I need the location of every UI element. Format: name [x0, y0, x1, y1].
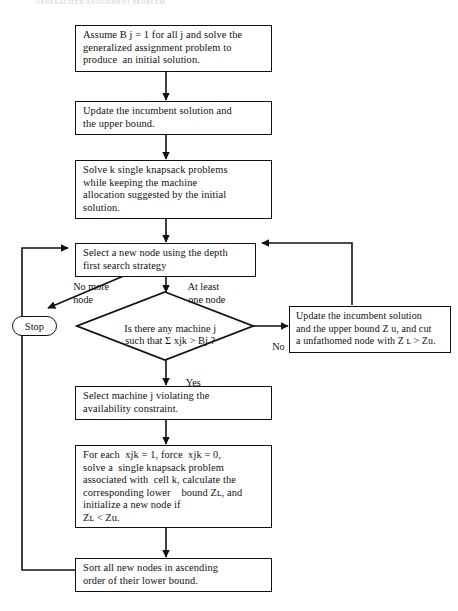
node-stop: Stop: [12, 316, 57, 336]
node-init: Assume B j = 1 for all j and solve the g…: [75, 25, 272, 72]
node-decision-line-2: such that Σ xjk > Bj ?: [125, 335, 215, 346]
node-update-bound-cut-line-2: and the upper bound Z u, and cut: [296, 323, 450, 336]
node-solve-knapsack-line-4: solution.: [83, 202, 271, 215]
node-for-each-line-3: associated with cell k, calculate the: [83, 474, 271, 487]
node-update-bound-cut-line-1: Update the incumbent solution: [296, 310, 450, 323]
edge-label-no: No: [262, 329, 285, 366]
edge-label-yes: Yes: [176, 365, 201, 402]
node-init-line-2: generalized assignment problem to: [83, 42, 271, 55]
node-select-machine: Select machine j violating the availabil…: [75, 386, 272, 420]
node-for-each-line-2: solve a single knapsack problem: [83, 462, 271, 475]
edge-label-at-least-one-node-line-1: At least: [188, 281, 219, 292]
node-update-incumbent-line-2: the upper bound.: [83, 118, 271, 131]
node-sort-nodes: Sort all new nodes in ascending order of…: [75, 558, 272, 592]
node-sort-nodes-line-1: Sort all new nodes in ascending: [83, 562, 271, 575]
node-for-each-line-5: initialize a new node if: [83, 499, 271, 512]
node-solve-knapsack-line-3: allocation suggested by the initial: [83, 189, 271, 202]
node-update-incumbent: Update the incumbent solution and the up…: [75, 101, 272, 135]
edge-label-no-more-node-line-2: node: [73, 294, 93, 305]
node-for-each: For each xjk = 1, force xjk = 0, solve a…: [75, 445, 272, 528]
node-init-line-1: Assume B j = 1 for all j and solve the: [83, 29, 271, 42]
node-solve-knapsack-line-1: Solve k single knapsack problems: [83, 164, 271, 177]
edge-label-no-more-node-line-1: No more: [73, 281, 109, 292]
edge-label-yes-text: Yes: [186, 377, 201, 388]
flowchart-page: GENERALIZED ASSIGNMENT PROBLEM: [0, 0, 458, 611]
edge-label-at-least-one-node: At least one node: [178, 269, 225, 319]
node-for-each-line-4: corresponding lower bound Zʟ, and: [83, 487, 271, 500]
node-select-machine-line-2: availability constraint.: [83, 403, 271, 416]
node-for-each-line-6: Zʟ < Zu.: [83, 512, 271, 525]
edge-label-no-more-node: No more node: [63, 269, 109, 319]
node-solve-knapsack-line-2: while keeping the machine: [83, 177, 271, 190]
node-stop-label: Stop: [25, 321, 44, 332]
node-update-bound-cut-line-3: a unfathomed node with Z ʟ > Zu.: [296, 335, 450, 348]
edge-label-at-least-one-node-line-2: one node: [188, 294, 225, 305]
node-update-bound-cut: Update the incumbent solution and the up…: [289, 306, 451, 353]
node-select-node-line-1: Select a new node using the depth: [83, 247, 255, 260]
node-for-each-line-1: For each xjk = 1, force xjk = 0,: [83, 449, 271, 462]
node-solve-knapsack: Solve k single knapsack problems while k…: [75, 160, 272, 219]
node-decision-line-1: Is there any machine j: [124, 323, 216, 334]
edge-label-no-text: No: [272, 341, 284, 352]
node-init-line-3: produce an initial solution.: [83, 54, 271, 67]
node-sort-nodes-line-2: order of their lower bound.: [83, 575, 271, 588]
node-update-incumbent-line-1: Update the incumbent solution and: [83, 105, 271, 118]
